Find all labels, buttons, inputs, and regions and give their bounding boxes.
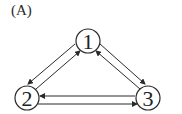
node-1-label: 1 <box>83 29 94 54</box>
node-3: 3 <box>136 86 160 111</box>
edge-2-to-1 <box>36 51 80 89</box>
edge-1-to-3 <box>100 44 145 84</box>
graph-diagram: 1 2 3 <box>0 0 182 114</box>
node-3-label: 3 <box>143 86 154 111</box>
node-2: 2 <box>15 86 39 111</box>
node-1: 1 <box>76 29 100 54</box>
edge-1-to-2 <box>28 44 75 84</box>
edge-3-to-1 <box>96 51 140 89</box>
node-2-label: 2 <box>22 86 33 111</box>
